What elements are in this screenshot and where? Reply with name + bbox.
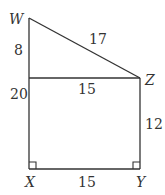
length-label-wm: 8 xyxy=(14,42,23,58)
length-label-zy: 12 xyxy=(145,116,163,132)
right-angle-marker-y xyxy=(133,162,140,169)
point-label-z: Z xyxy=(144,72,155,88)
length-label-wx: 20 xyxy=(10,86,28,102)
length-label-xy: 15 xyxy=(78,174,96,190)
geometry-diagram: W Z X Y 8 17 15 20 12 15 xyxy=(0,0,165,195)
length-label-wz: 17 xyxy=(89,31,107,47)
point-label-x: X xyxy=(24,174,36,190)
segment-wz xyxy=(29,18,140,78)
point-label-y: Y xyxy=(136,174,147,190)
length-label-mz: 15 xyxy=(78,81,96,97)
right-angle-marker-x xyxy=(29,162,36,169)
point-label-w: W xyxy=(9,11,25,27)
